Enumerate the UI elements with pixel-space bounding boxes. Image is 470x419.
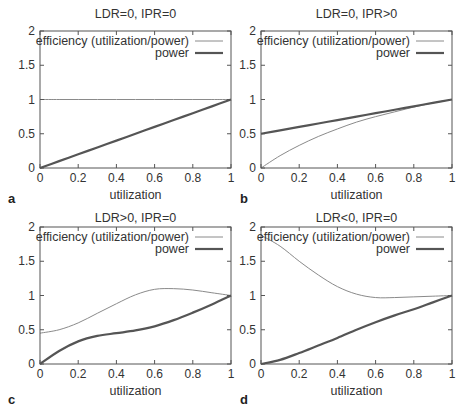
y-tick-label: 0.5 — [239, 323, 256, 337]
x-tick-label: 1 — [228, 367, 235, 381]
y-tick-label: 1 — [28, 93, 35, 107]
x-tick-label: 0.8 — [184, 171, 201, 185]
x-tick-label: 0.2 — [291, 171, 308, 185]
legend: efficiency (utilization/power)power — [257, 230, 444, 256]
x-axis-label: utilization — [330, 188, 382, 202]
panel-d: LDR<0, IPR=000.20.40.60.8100.511.52utili… — [239, 211, 455, 407]
x-axis-label: utilization — [330, 384, 382, 398]
y-tick-label: 0 — [28, 161, 35, 175]
x-tick-label: 0.4 — [108, 171, 125, 185]
x-tick-label: 0.8 — [405, 171, 422, 185]
x-tick-label: 0.4 — [108, 367, 125, 381]
x-tick-label: 0.2 — [291, 367, 308, 381]
panel-letter: b — [240, 191, 248, 206]
power-line — [261, 296, 452, 365]
panel-b: LDR=0, IPR>000.20.40.60.8100.511.52utili… — [239, 7, 455, 206]
legend: efficiency (utilization/power)power — [36, 230, 223, 256]
y-tick-label: 2 — [249, 24, 256, 38]
plot-frame — [261, 31, 452, 168]
panel-c: LDR>0, IPR=000.20.40.60.8100.511.52utili… — [8, 211, 235, 407]
y-tick-label: 0.5 — [239, 127, 256, 141]
y-tick-label: 0 — [249, 357, 256, 371]
y-tick-label: 0.5 — [18, 323, 35, 337]
panel-letter: c — [8, 392, 15, 407]
x-tick-label: 0.6 — [367, 171, 384, 185]
x-tick-label: 0.8 — [405, 367, 422, 381]
x-tick-label: 0.2 — [70, 367, 87, 381]
legend-label: power — [155, 46, 189, 60]
efficiency-line — [40, 289, 231, 334]
panel-title: LDR<0, IPR=0 — [316, 211, 397, 225]
panel-letter: a — [8, 191, 16, 206]
y-tick-label: 0 — [249, 161, 256, 175]
x-tick-label: 0.4 — [329, 171, 346, 185]
y-tick-label: 0.5 — [18, 127, 35, 141]
x-tick-label: 0.6 — [146, 171, 163, 185]
x-tick-label: 0 — [37, 367, 44, 381]
plot-frame — [261, 227, 452, 364]
x-tick-label: 1 — [228, 171, 235, 185]
legend: efficiency (utilization/power)power — [36, 34, 223, 60]
y-tick-label: 1 — [28, 289, 35, 303]
power-line — [40, 100, 231, 169]
efficiency-line — [261, 100, 452, 169]
x-tick-label: 0.6 — [146, 367, 163, 381]
power-line — [40, 296, 231, 365]
legend-label: power — [155, 242, 189, 256]
y-tick-label: 1 — [249, 289, 256, 303]
x-tick-label: 0.4 — [329, 367, 346, 381]
panel-letter: d — [240, 392, 248, 407]
y-tick-label: 1 — [249, 93, 256, 107]
y-tick-label: 1.5 — [239, 254, 256, 268]
y-tick-label: 2 — [28, 220, 35, 234]
y-tick-label: 1.5 — [18, 254, 35, 268]
plot-frame — [40, 227, 231, 364]
y-tick-label: 2 — [249, 220, 256, 234]
y-tick-label: 1.5 — [239, 58, 256, 72]
y-tick-label: 2 — [28, 24, 35, 38]
figure: LDR=0, IPR=000.20.40.60.8100.511.52utili… — [0, 0, 470, 419]
x-axis-label: utilization — [109, 188, 161, 202]
panel-title: LDR>0, IPR=0 — [95, 211, 176, 225]
legend-label: power — [376, 242, 410, 256]
panel-a: LDR=0, IPR=000.20.40.60.8100.511.52utili… — [8, 7, 235, 206]
x-tick-label: 1 — [449, 367, 456, 381]
x-tick-label: 0 — [37, 171, 44, 185]
x-tick-label: 0.6 — [367, 367, 384, 381]
panel-title: LDR=0, IPR>0 — [316, 7, 397, 21]
y-tick-label: 1.5 — [18, 58, 35, 72]
efficiency-line — [261, 235, 452, 298]
legend-label: power — [376, 46, 410, 60]
x-tick-label: 0 — [258, 171, 265, 185]
x-tick-label: 0 — [258, 367, 265, 381]
x-tick-label: 0.2 — [70, 171, 87, 185]
x-tick-label: 0.8 — [184, 367, 201, 381]
legend: efficiency (utilization/power)power — [257, 34, 444, 60]
power-line — [261, 100, 452, 134]
y-tick-label: 0 — [28, 357, 35, 371]
x-axis-label: utilization — [109, 384, 161, 398]
panel-title: LDR=0, IPR=0 — [95, 7, 176, 21]
x-tick-label: 1 — [449, 171, 456, 185]
